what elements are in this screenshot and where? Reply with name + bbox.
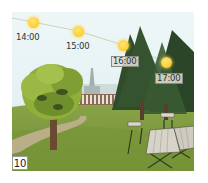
time-label: 14:00	[16, 33, 40, 42]
sun-icon	[28, 17, 39, 28]
time-label: 16:00	[111, 56, 139, 67]
time-label: 15:00	[66, 42, 90, 51]
figure-number-badge: 10	[12, 156, 28, 170]
sun-icon	[118, 40, 129, 51]
time-label: 17:00	[155, 73, 183, 84]
sun-icon	[161, 57, 172, 68]
sun-icon	[73, 26, 84, 37]
